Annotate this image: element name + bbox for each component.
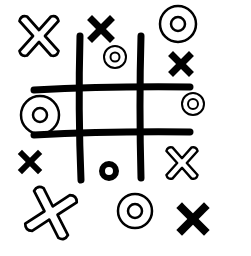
solid-x-mark xyxy=(182,208,204,230)
outlined-o-mark xyxy=(21,96,59,134)
grid-line-v2 xyxy=(140,36,141,178)
grid-line-v1 xyxy=(79,36,81,180)
solid-o-mark xyxy=(102,164,116,178)
solid-x-mark xyxy=(92,20,110,38)
outlined-x-mark xyxy=(20,16,59,56)
outlined-o-mark xyxy=(118,194,152,228)
outlined-o-mark xyxy=(182,93,204,115)
outlined-x-mark xyxy=(24,186,78,241)
outlined-o-mark xyxy=(104,46,126,68)
grid-line-h1 xyxy=(34,87,190,90)
solid-x-mark xyxy=(173,56,189,72)
solid-x-mark xyxy=(22,154,38,170)
outlined-x-mark xyxy=(166,147,197,179)
tic-tac-toe-illustration xyxy=(0,0,251,256)
outlined-o-mark xyxy=(160,6,196,42)
grid-line-h2 xyxy=(34,132,190,135)
